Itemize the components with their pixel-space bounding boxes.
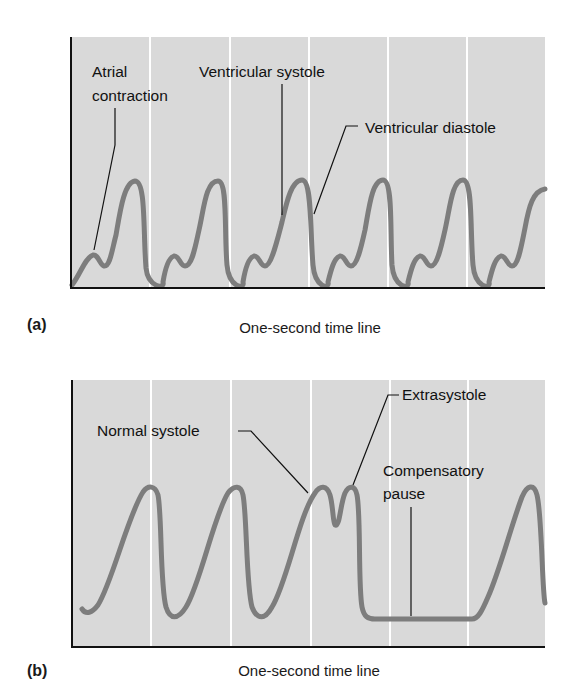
label-normal-systole: Normal systole: [97, 422, 200, 439]
label-ventricular-diastole: Ventricular diastole: [365, 119, 496, 136]
label-compensatory: Compensatory: [383, 462, 484, 479]
time-axis-caption-b: One-second time line: [72, 662, 546, 679]
panel-a: Atrial contraction Ventricular systole V…: [0, 0, 570, 345]
label-ventricular-systole: Ventricular systole: [199, 63, 325, 80]
panel-a-plot: Atrial contraction Ventricular systole V…: [0, 0, 570, 345]
label-extrasystole: Extrasystole: [402, 386, 486, 403]
panel-b: Extrasystole Normal systole Compensatory…: [0, 345, 570, 686]
time-axis-caption-a: One-second time line: [73, 319, 547, 336]
panel-b-plot: Extrasystole Normal systole Compensatory…: [0, 345, 570, 686]
label-contraction: contraction: [92, 87, 168, 104]
label-atrial: Atrial: [92, 63, 127, 80]
plot-background: [72, 380, 545, 647]
panel-letter-a: (a): [27, 316, 47, 334]
label-pause: pause: [383, 485, 425, 502]
panel-letter-b: (b): [27, 662, 47, 680]
